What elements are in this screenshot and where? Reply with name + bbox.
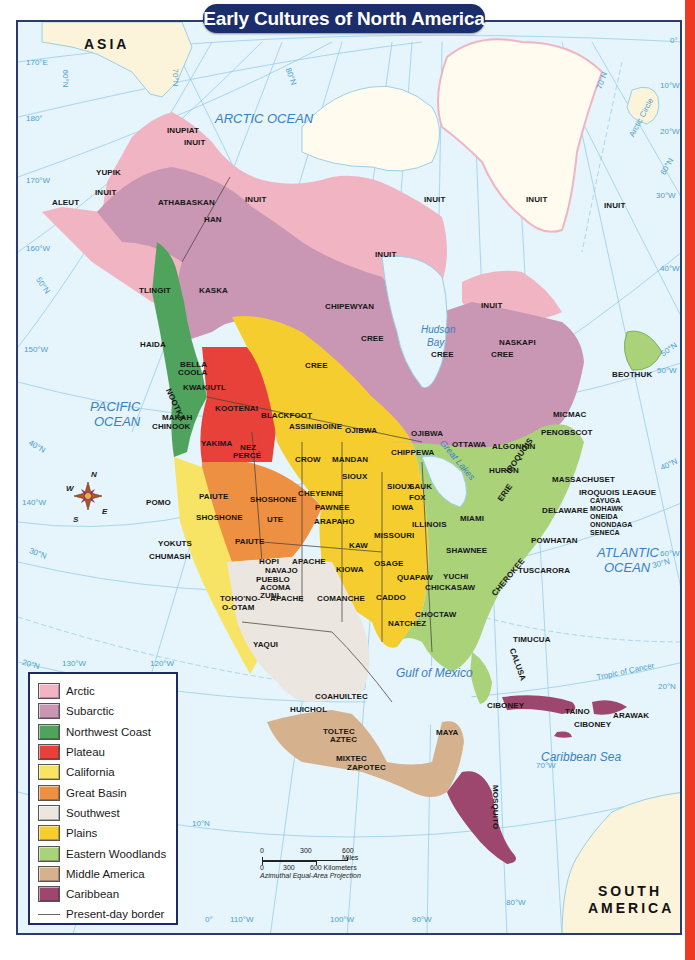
culture-label: INUIT (245, 195, 266, 204)
culture-label: ARAPAHO (314, 517, 355, 526)
hudson-bay-label-1: Hudson (421, 324, 455, 335)
map-title: Early Cultures of North America (203, 4, 485, 33)
culture-label: CHINOOK (152, 422, 190, 431)
hudson-bay-label-2: Bay (427, 337, 444, 348)
culture-label: AZTEC (330, 735, 357, 744)
grid-label: 130°W (62, 659, 86, 668)
grid-label: 160°W (26, 244, 50, 253)
culture-label: ILLINOIS (412, 520, 447, 529)
map-legend: Arctic Subarctic Northwest Coast Plateau… (28, 672, 178, 925)
culture-label: ONONDAGA (590, 521, 632, 529)
legend-item-eastern-woodlands: Eastern Woodlands (38, 843, 168, 863)
legend-swatch (38, 866, 60, 882)
culture-label: PERCÉ (233, 451, 261, 460)
culture-label: MICMAC (553, 410, 586, 419)
grid-label: 60°W (660, 549, 680, 558)
legend-swatch (38, 785, 60, 801)
culture-label: IROQUOIS LEAGUE (579, 488, 656, 497)
culture-label: OJIBWA (411, 429, 443, 438)
grid-label: 80°W (506, 898, 526, 907)
culture-label: HOPI (259, 557, 279, 566)
culture-label: MANDAN (332, 455, 368, 464)
grid-label: 10°N (192, 819, 210, 828)
culture-label: NAVAJO (265, 566, 298, 575)
culture-label: MIAMI (460, 514, 484, 523)
grid-label: 170°W (26, 176, 50, 185)
legend-item-middle-america: Middle America (38, 864, 168, 884)
culture-label: CREE (431, 350, 454, 359)
border-line-icon (38, 914, 60, 915)
culture-label: MISSOURI (374, 531, 414, 540)
culture-label: HAN (204, 215, 222, 224)
gulf-of-mexico-label: Gulf of Mexico (396, 666, 473, 680)
continent-label-south-america-2: AMERICA (588, 900, 674, 917)
legend-swatch (38, 886, 60, 902)
culture-label: KIOWA (336, 565, 364, 574)
legend-swatch (38, 825, 60, 841)
culture-label: HUICHOL (290, 705, 327, 714)
grid-label: 0° (670, 36, 678, 45)
culture-label: CHICKASAW (425, 583, 475, 592)
arctic-ocean-label: ARCTIC OCEAN (215, 111, 313, 126)
culture-label: O-OTAM (222, 603, 254, 612)
grid-label: 40°W (660, 264, 680, 273)
culture-label: MASSACHUSET (552, 475, 615, 484)
scale-km-300: 300 (283, 864, 295, 871)
culture-label: CREE (491, 350, 514, 359)
culture-label: CAYUGA (590, 497, 620, 505)
culture-label: YUCHI (443, 572, 468, 581)
grid-label: 150°W (24, 345, 48, 354)
scale-miles-300: 300 (300, 847, 312, 854)
culture-label: POWHATAN (531, 536, 578, 545)
grid-label: 10°W (660, 81, 680, 90)
culture-label: COOLA (178, 368, 207, 377)
culture-label: MIXTEC (336, 754, 367, 763)
culture-label: INUIT (95, 188, 116, 197)
svg-text:S: S (73, 515, 79, 524)
legend-item-southwest: Southwest (38, 803, 168, 823)
pacific-ocean-label-2: OCEAN (94, 414, 140, 429)
legend-swatch (38, 846, 60, 862)
scale-km-0: 0 (260, 864, 264, 871)
culture-label: ATHABASKAN (158, 198, 215, 207)
grid-label: 90°W (412, 915, 432, 924)
culture-label: CHOCTAW (415, 610, 456, 619)
culture-label: TIMUCUA (513, 635, 551, 644)
culture-label: SAUK (409, 482, 432, 491)
culture-label: UTE (267, 515, 283, 524)
svg-text:E: E (102, 507, 108, 516)
culture-label: CHIPPEWA (391, 448, 434, 457)
grid-label: 180° (26, 114, 43, 123)
legend-item-subarctic: Subarctic (38, 701, 168, 721)
compass-rose: N W E S (62, 468, 122, 524)
culture-label: SHOSHONE (250, 495, 297, 504)
culture-label: KOOTENAI (215, 404, 258, 413)
culture-label: TLINGIT (139, 286, 171, 295)
culture-label: CREE (305, 361, 328, 370)
page-edge-strip (685, 0, 695, 960)
projection-label: Azimuthal Equal-Area Projection (260, 872, 361, 879)
legend-swatch (38, 805, 60, 821)
culture-label: OTTAWA (452, 440, 486, 449)
scale-km-600: 600 Kilometers (310, 864, 357, 871)
culture-label: BEOTHUK (612, 370, 652, 379)
grid-label: 20°N (658, 682, 676, 691)
legend-swatch (38, 744, 60, 760)
culture-label: INUIT (375, 250, 396, 259)
grid-label: 0° (205, 915, 213, 924)
culture-label: INUPIAT (167, 126, 199, 135)
culture-label: TOHO'NO- (220, 594, 260, 603)
culture-label: INUIT (604, 201, 625, 210)
culture-label: OJIBWA (345, 426, 377, 435)
culture-label: INUIT (424, 195, 445, 204)
culture-label: YUPIK (96, 168, 121, 177)
grid-label: 20°W (660, 127, 680, 136)
legend-item-plains: Plains (38, 823, 168, 843)
culture-label: INUIT (526, 195, 547, 204)
culture-label: HAIDA (140, 340, 166, 349)
culture-label: MOHAWK (590, 505, 623, 513)
grid-label: 100°W (330, 915, 354, 924)
culture-label: YAQUI (253, 640, 278, 649)
svg-text:N: N (91, 470, 97, 479)
culture-label: POMO (146, 498, 171, 507)
